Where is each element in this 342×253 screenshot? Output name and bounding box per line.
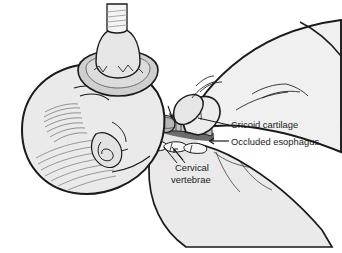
label-cervical-vertebrae-line-1: Cervical <box>175 162 209 173</box>
face-mask <box>78 4 158 96</box>
label-cervical-vertebrae-line-2: vertebrae <box>171 174 211 185</box>
cricoid-pressure-figure: Cricoid cartilage Occluded esophagus Cer… <box>0 0 342 253</box>
label-occluded-esophagus: Occluded esophagus <box>231 136 319 147</box>
illustration-canvas: Cricoid cartilage Occluded esophagus Cer… <box>0 0 342 253</box>
bag-valve-connector <box>107 4 127 33</box>
clinician-hand <box>174 20 341 152</box>
label-cricoid-cartilage: Cricoid cartilage <box>231 119 298 130</box>
